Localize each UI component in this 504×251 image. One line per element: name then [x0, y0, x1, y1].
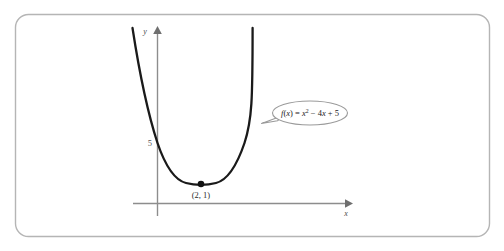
- y-intercept-tick-label: 5: [148, 138, 152, 148]
- figure-container: y x 5 (2, 1) f(x) = x2 − 4x + 5: [0, 0, 504, 251]
- function-formula-label: f(x) = x2 − 4x + 5: [281, 108, 339, 118]
- formula-term3: + 5: [326, 108, 339, 118]
- y-axis-label: y: [142, 27, 147, 36]
- formula-equals: =: [293, 108, 302, 118]
- vertex-coordinate-label: (2, 1): [192, 190, 211, 200]
- parabola-diagram: y x 5 (2, 1) f(x) = x2 − 4x + 5: [0, 0, 504, 251]
- formula-term2: − 4: [309, 108, 323, 118]
- vertex-point-dot: [198, 181, 205, 188]
- x-axis-label: x: [343, 209, 348, 218]
